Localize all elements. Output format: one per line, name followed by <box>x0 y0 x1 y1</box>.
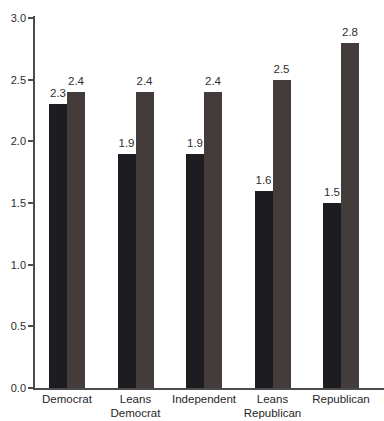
bar-series-dark-leans-democrat <box>118 154 136 388</box>
value-label-series-gray-leans-republican: 2.5 <box>265 63 299 76</box>
y-tick-label: 0.5 <box>0 320 26 332</box>
y-tick-label: 1.5 <box>0 197 26 209</box>
value-label-series-gray-democrat: 2.4 <box>59 75 93 88</box>
bar-series-gray-democrat <box>67 92 85 388</box>
bar-series-dark-republican <box>323 203 341 388</box>
x-category-label-republican: Republican <box>302 392 380 406</box>
x-axis <box>33 388 384 390</box>
y-axis <box>33 16 35 390</box>
bar-series-gray-leans-republican <box>273 80 291 388</box>
x-category-label-leans-republican: Leans Republican <box>234 392 312 420</box>
bar-series-dark-independent <box>186 154 204 388</box>
y-tick-label: 0.0 <box>0 382 26 394</box>
y-tick <box>28 387 33 389</box>
value-label-series-gray-independent: 2.4 <box>196 75 230 88</box>
x-category-label-independent: Independent <box>165 392 243 406</box>
y-tick <box>28 140 33 142</box>
y-tick <box>28 202 33 204</box>
bar-series-dark-leans-republican <box>255 191 273 388</box>
y-tick <box>28 264 33 266</box>
value-label-series-gray-leans-democrat: 2.4 <box>128 75 162 88</box>
x-category-label-democrat: Democrat <box>28 392 106 406</box>
bar-series-gray-leans-democrat <box>136 92 154 388</box>
y-tick-label: 3.0 <box>0 12 26 24</box>
y-tick-label: 2.0 <box>0 135 26 147</box>
x-category-label-leans-democrat: Leans Democrat <box>97 392 175 420</box>
y-tick-label: 1.0 <box>0 259 26 271</box>
bar-series-gray-independent <box>204 92 222 388</box>
y-tick <box>28 17 33 19</box>
bar-series-gray-republican <box>341 43 359 388</box>
y-tick <box>28 325 33 327</box>
y-tick-label: 2.5 <box>0 74 26 86</box>
bar-chart: 0.00.51.01.52.02.53.02.32.4Democrat1.92.… <box>0 0 384 421</box>
value-label-series-gray-republican: 2.8 <box>333 26 367 39</box>
bar-series-dark-democrat <box>49 104 67 388</box>
y-tick <box>28 79 33 81</box>
